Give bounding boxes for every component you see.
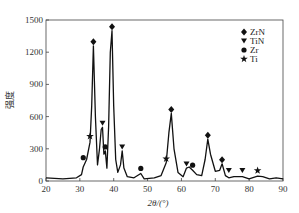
legend-marker-zr <box>241 47 246 52</box>
marker-tin <box>119 144 125 149</box>
marker-zrn <box>205 132 211 139</box>
x-tick-label: 50 <box>143 184 153 194</box>
x-tick-label: 80 <box>245 184 255 194</box>
marker-zr <box>190 163 195 168</box>
ticks: 2030405060708090030060090012001500 <box>25 15 288 194</box>
legend-label-ti: Ti <box>250 54 258 64</box>
y-tick-label: 900 <box>30 79 44 89</box>
marker-zrn <box>219 156 225 163</box>
x-tick-label: 60 <box>177 184 187 194</box>
y-tick-label: 1500 <box>25 15 44 25</box>
x-tick-label: 70 <box>211 184 221 194</box>
legend-marker-ti <box>240 55 248 62</box>
legend-marker-zrn <box>241 29 247 36</box>
marker-tin <box>226 168 232 173</box>
y-axis-label: 强度 <box>4 91 15 109</box>
marker-zrn <box>90 38 96 45</box>
y-tick-label: 300 <box>30 144 44 154</box>
x-tick-label: 90 <box>279 184 289 194</box>
y-tick-label: 600 <box>30 112 44 122</box>
marker-zrn <box>109 23 115 30</box>
xrd-chart: 2030405060708090030060090012001500 2θ/(°… <box>0 0 299 213</box>
y-tick-label: 1200 <box>25 47 44 57</box>
legend-marker-tin <box>241 39 247 44</box>
marker-zr <box>81 155 86 160</box>
marker-zr <box>138 166 143 171</box>
marker-zrn <box>168 106 174 113</box>
x-tick-label: 30 <box>75 184 85 194</box>
marker-zr <box>103 144 108 149</box>
x-tick-label: 40 <box>109 184 119 194</box>
marker-tin <box>184 162 190 167</box>
marker-tin <box>239 168 245 173</box>
marker-tin <box>100 121 106 126</box>
marker-ti <box>254 167 262 174</box>
legend: ZrNTiNZrTi <box>240 27 265 64</box>
x-axis-label: 2θ/(°) <box>147 198 168 208</box>
y-tick-label: 0 <box>39 176 44 186</box>
